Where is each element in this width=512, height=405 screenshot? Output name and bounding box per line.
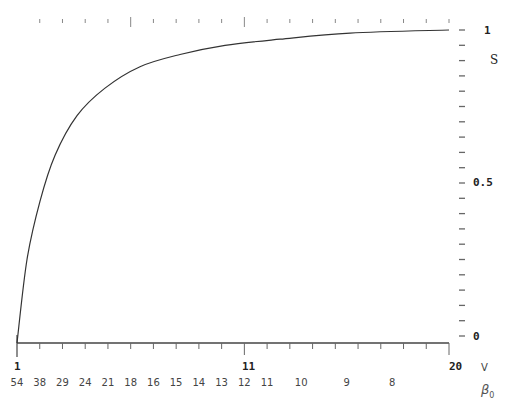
top-tick-marks xyxy=(40,17,449,27)
beta0-tick-label: 21 xyxy=(102,377,115,388)
beta0-tick-label: 13 xyxy=(215,377,228,388)
y-tick-label-1: 1 xyxy=(484,25,491,36)
x-tick-label-1: 1 xyxy=(14,361,21,372)
beta0-tick-label: 9 xyxy=(343,377,349,388)
x-axis xyxy=(17,335,449,357)
y-axis-ticks xyxy=(459,30,465,336)
beta0-tick-label: 8 xyxy=(389,377,395,388)
beta0-tick-label: 29 xyxy=(56,377,69,388)
beta0-tick-label: 14 xyxy=(192,377,205,388)
x-axis-title-v: V xyxy=(481,362,488,373)
beta0-tick-label: 54 xyxy=(11,377,24,388)
x-tick-label-11: 11 xyxy=(242,361,255,372)
beta0-tick-label: 12 xyxy=(238,377,251,388)
beta0-tick-label: 15 xyxy=(170,377,183,388)
s-curve-line xyxy=(17,30,449,343)
beta0-tick-label: 16 xyxy=(147,377,160,388)
beta0-tick-label: 38 xyxy=(33,377,46,388)
y-tick-label-0-5: 0.5 xyxy=(473,177,493,188)
beta0-tick-label: 10 xyxy=(295,377,308,388)
beta0-tick-label: 11 xyxy=(261,377,274,388)
beta0-tick-label: 24 xyxy=(79,377,92,388)
chart-canvas xyxy=(0,0,512,405)
y-axis-title-s: S xyxy=(490,55,498,66)
beta0-tick-label: 18 xyxy=(124,377,137,388)
beta0-axis-title: β0 xyxy=(481,384,494,401)
y-tick-label-0: 0 xyxy=(473,331,480,342)
x-tick-label-20: 20 xyxy=(449,361,462,372)
beta-subscript: 0 xyxy=(489,391,494,400)
